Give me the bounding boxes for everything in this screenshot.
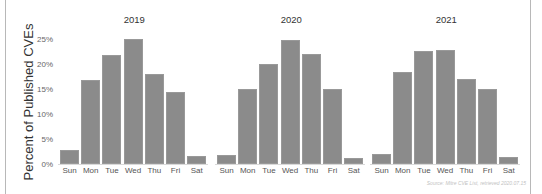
panel-2019: 2019SunMonTueWedThuFriSat: [60, 0, 208, 194]
x-tick: Mon: [80, 166, 102, 175]
y-axis-label: Percent of Published CVEs: [21, 24, 36, 181]
x-tick: Sat: [186, 166, 208, 175]
bar-tue: [102, 55, 121, 165]
bar-tue: [259, 64, 278, 165]
bar-mon: [393, 72, 412, 164]
bar-fri: [323, 89, 342, 165]
x-tick: Thu: [143, 166, 165, 175]
x-tick: Sat: [498, 166, 520, 175]
panel-title: 2021: [372, 14, 520, 25]
bar-wed: [124, 39, 143, 164]
x-tick: Wed: [122, 166, 144, 175]
y-tick: 25%: [37, 35, 53, 44]
x-axis-line: [370, 164, 520, 165]
x-tick: Fri: [477, 166, 499, 175]
y-tick: 20%: [37, 60, 53, 69]
x-tick: Sun: [59, 166, 81, 175]
bar-sun: [60, 150, 79, 164]
bar-fri: [166, 92, 185, 165]
panel-2021: 2021SunMonTueWedThuFriSat: [372, 0, 520, 194]
y-tick: 5%: [41, 135, 53, 144]
x-axis-line: [58, 164, 208, 165]
y-tick: 0%: [41, 160, 53, 169]
x-tick: Tue: [413, 166, 435, 175]
x-tick: Sun: [216, 166, 238, 175]
bar-tue: [414, 51, 433, 165]
bar-sat: [499, 157, 518, 165]
x-tick: Sat: [343, 166, 365, 175]
bar-sat: [187, 156, 206, 164]
bar-fri: [478, 89, 497, 165]
bar-sun: [217, 155, 236, 165]
bar-sat: [344, 158, 363, 165]
bar-sun: [372, 154, 391, 165]
bar-thu: [145, 74, 164, 164]
x-axis-line: [215, 164, 365, 165]
panel-title: 2019: [60, 14, 208, 25]
bar-mon: [238, 89, 257, 165]
x-tick: Mon: [392, 166, 414, 175]
x-tick: Fri: [165, 166, 187, 175]
panel-2020: 2020SunMonTueWedThuFriSat: [217, 0, 365, 194]
x-tick: Fri: [322, 166, 344, 175]
bar-mon: [81, 80, 100, 164]
x-tick: Tue: [101, 166, 123, 175]
y-tick: 15%: [37, 85, 53, 94]
bar-wed: [281, 40, 300, 164]
bar-thu: [457, 79, 476, 165]
x-tick: Mon: [237, 166, 259, 175]
x-tick: Tue: [258, 166, 280, 175]
x-tick: Thu: [455, 166, 477, 175]
source-note: Source: Mitre CVE List, retrieved 2020.0…: [427, 180, 526, 186]
y-tick: 10%: [37, 110, 53, 119]
x-tick: Sun: [371, 166, 393, 175]
panel-title: 2020: [217, 14, 365, 25]
bar-wed: [436, 50, 455, 165]
x-tick: Wed: [279, 166, 301, 175]
bar-thu: [302, 54, 321, 164]
x-tick: Wed: [434, 166, 456, 175]
x-tick: Thu: [300, 166, 322, 175]
